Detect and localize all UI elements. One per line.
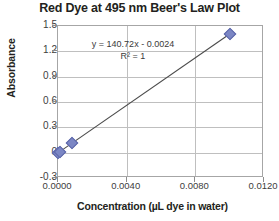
y-axis-tick-label: 1.2: [17, 44, 57, 55]
plot-area: y = 140.72x - 0.0024 R² = 1: [57, 25, 263, 177]
y-axis-tick-label: 0: [17, 146, 57, 157]
y-axis-tick-label: 1.5: [17, 19, 57, 30]
x-axis-tick-label: 0.0120: [233, 180, 279, 191]
y-axis-title: Absorbance: [5, 13, 17, 123]
y-axis-tick-label: 0.3: [17, 120, 57, 131]
r-squared-label: R² = 1: [67, 51, 199, 61]
beers-law-chart: Red Dye at 495 nm Beer's Law Plot Absorb…: [0, 0, 279, 221]
x-axis-title: Concentration (µL dye in water): [30, 200, 275, 212]
y-axis-tick-label: 0.6: [17, 95, 57, 106]
chart-title: Red Dye at 495 nm Beer's Law Plot: [0, 1, 279, 15]
trendline-equation-label: y = 140.72x - 0.0024: [67, 38, 199, 51]
y-axis-tick-label: 0.9: [17, 70, 57, 81]
